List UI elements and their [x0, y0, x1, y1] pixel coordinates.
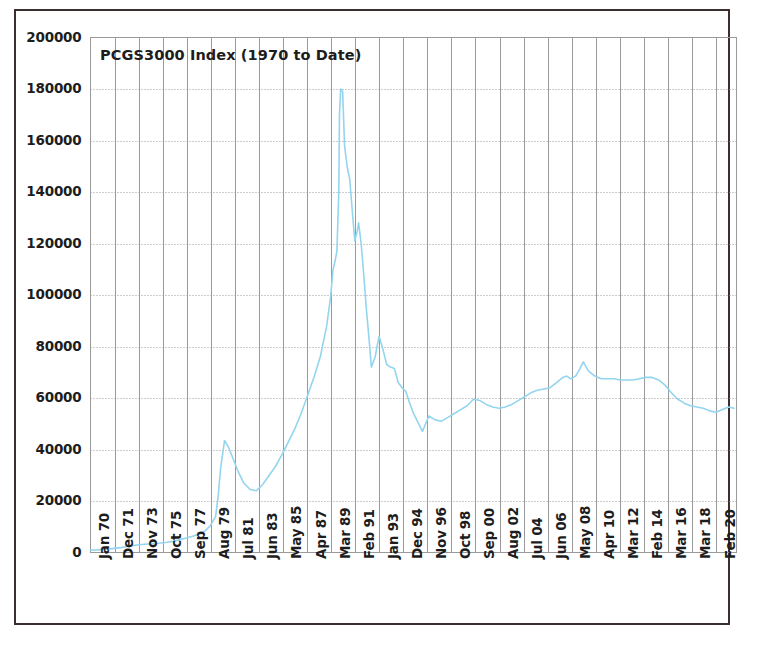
- x-axis-tick-label: Mar 12: [625, 507, 641, 559]
- chart-title: PCGS3000 Index (1970 to Date): [100, 47, 361, 63]
- x-axis-tick-label: Oct 75: [168, 510, 184, 558]
- y-axis-tick-label: 120000: [0, 235, 82, 251]
- x-axis-tick-label: Feb 14: [649, 509, 665, 559]
- x-axis-tick-label: Dec 94: [409, 508, 425, 559]
- vertical-gridlines: [116, 38, 717, 553]
- x-axis-tick-label: Sep 77: [192, 508, 208, 559]
- x-axis-tick-label: Jun 06: [553, 512, 569, 559]
- x-axis-tick-label: Apr 87: [313, 509, 329, 558]
- x-axis-tick-label: Mar 16: [673, 507, 689, 559]
- x-axis-tick-label: Mar 89: [337, 507, 353, 559]
- y-axis-tick-label: 140000: [0, 183, 82, 199]
- x-axis-tick-label: Mar 18: [697, 507, 713, 559]
- y-axis-tick-label: 180000: [0, 80, 82, 96]
- x-axis-tick-label: May 08: [577, 505, 593, 558]
- x-axis-tick-label: May 85: [288, 505, 304, 558]
- chart-figure: PCGS3000 Index (1970 to Date) 2000001800…: [0, 0, 772, 654]
- y-axis-tick-label: 20000: [0, 492, 82, 508]
- x-axis-tick-label: Jul 81: [240, 517, 256, 559]
- y-axis-tick-label: 0: [0, 544, 82, 560]
- x-axis-tick-label: Aug 79: [216, 506, 232, 558]
- x-axis-tick-label: Jul 04: [529, 517, 545, 559]
- x-axis-tick-label: Feb 91: [361, 509, 377, 559]
- x-axis-tick-label: Feb 20: [722, 509, 738, 559]
- x-axis-tick-label: Jan 70: [96, 512, 112, 558]
- x-axis-tick-label: Nov 73: [144, 507, 160, 559]
- x-axis-tick-label: Nov 96: [433, 507, 449, 559]
- y-axis-tick-label: 200000: [0, 29, 82, 45]
- x-axis-tick-label: Apr 10: [601, 509, 617, 558]
- x-axis-tick-label: Sep 00: [481, 508, 497, 559]
- y-axis-tick-label: 160000: [0, 132, 82, 148]
- y-axis-tick-label: 60000: [0, 389, 82, 405]
- y-axis-tick-label: 100000: [0, 286, 82, 302]
- x-axis-tick-label: Jun 83: [264, 512, 280, 559]
- x-axis-tick-label: Jan 93: [385, 512, 401, 558]
- x-axis-tick-label: Dec 71: [120, 508, 136, 559]
- x-axis-tick-label: Oct 98: [457, 510, 473, 558]
- y-axis-tick-label: 80000: [0, 338, 82, 354]
- x-axis-tick-label: Aug 02: [505, 506, 521, 558]
- y-axis-tick-label: 40000: [0, 441, 82, 457]
